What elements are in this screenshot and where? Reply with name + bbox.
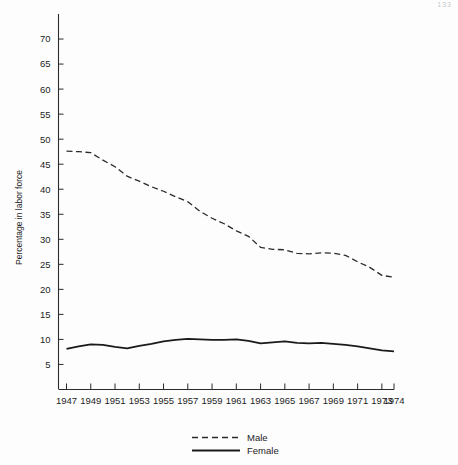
x-tick-label: 1957 — [177, 395, 198, 406]
y-tick-label: 45 — [40, 159, 51, 170]
line-chart: 510152025303540455055606570 194719491951… — [0, 0, 458, 465]
y-tick-label: 10 — [40, 334, 51, 345]
x-tick-label: 1971 — [347, 395, 368, 406]
legend-label-male: Male — [247, 432, 268, 443]
y-tick-label: 25 — [40, 259, 51, 270]
x-tick-label: 1969 — [323, 395, 344, 406]
y-tick-label: 30 — [40, 234, 51, 245]
y-tick-label: 60 — [40, 84, 51, 95]
y-tick-label: 40 — [40, 184, 51, 195]
x-tick-label: 1965 — [274, 395, 295, 406]
y-tick-label: 20 — [40, 284, 51, 295]
x-tick-label: 1955 — [153, 395, 174, 406]
y-tick-label: 50 — [40, 134, 51, 145]
x-tick-label: 1974 — [383, 395, 404, 406]
x-tick-label: 1963 — [250, 395, 271, 406]
y-tick-label: 35 — [40, 209, 51, 220]
x-tick-label: 1947 — [56, 395, 77, 406]
x-tick-label: 1951 — [104, 395, 125, 406]
y-tick-label: 65 — [40, 58, 51, 69]
x-tick-label: 1949 — [80, 395, 101, 406]
legend-label-female: Female — [247, 445, 279, 456]
y-tick-label: 70 — [40, 33, 51, 44]
y-tick-label: 55 — [40, 109, 51, 120]
x-tick-label: 1959 — [201, 395, 222, 406]
page-number: 133 — [437, 1, 452, 8]
figure-container: 133 510152025303540455055606570 19471949… — [0, 0, 458, 465]
x-tick-label: 1953 — [129, 395, 150, 406]
x-tick-label: 1967 — [299, 395, 320, 406]
y-tick-label: 5 — [45, 359, 50, 370]
x-tick-label: 1961 — [226, 395, 247, 406]
y-axis-title: Percentage in labor force — [14, 170, 24, 265]
y-tick-label: 15 — [40, 309, 51, 320]
